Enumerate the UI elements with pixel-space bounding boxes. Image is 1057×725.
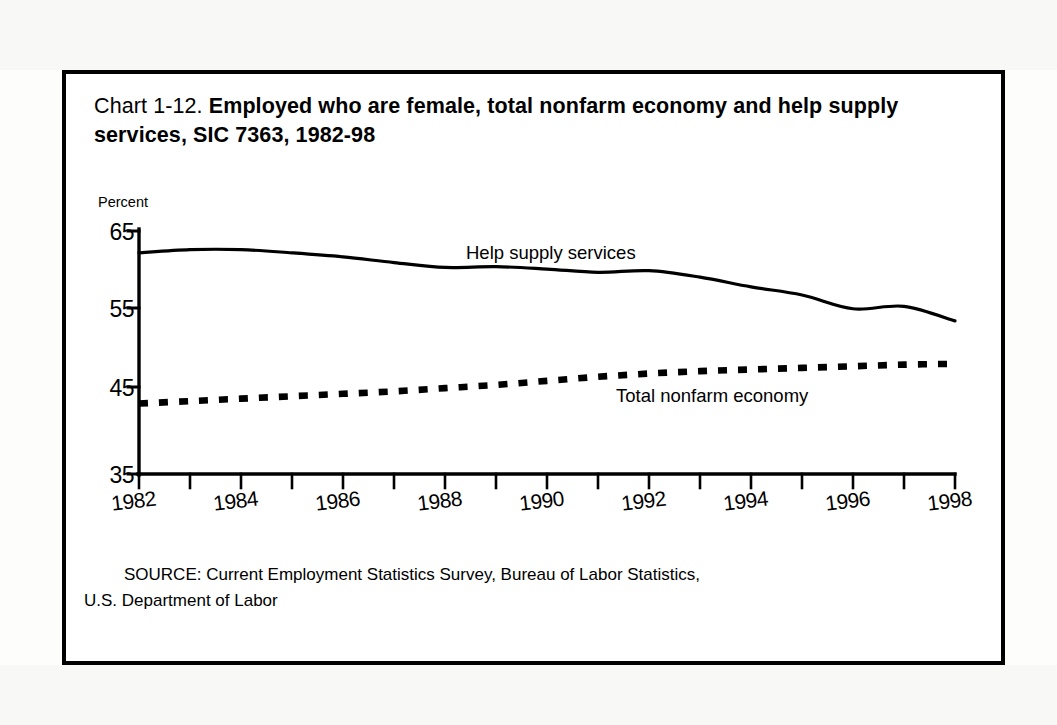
x-axis-ticks <box>139 474 955 488</box>
source-line-1: SOURCE: Current Employment Statistics Su… <box>84 562 700 588</box>
series-label-total-nonfarm-economy: Total nonfarm economy <box>616 385 808 407</box>
source-note: SOURCE: Current Employment Statistics Su… <box>84 562 974 614</box>
source-line-2: U.S. Department of Labor <box>84 591 278 610</box>
scanned-page: Chart 1-12. Employed who are female, tot… <box>0 0 1057 725</box>
figure-frame: Chart 1-12. Employed who are female, tot… <box>62 70 1005 665</box>
series-label-help-supply-services: Help supply services <box>466 242 636 264</box>
series-total-nonfarm-economy <box>139 364 955 404</box>
